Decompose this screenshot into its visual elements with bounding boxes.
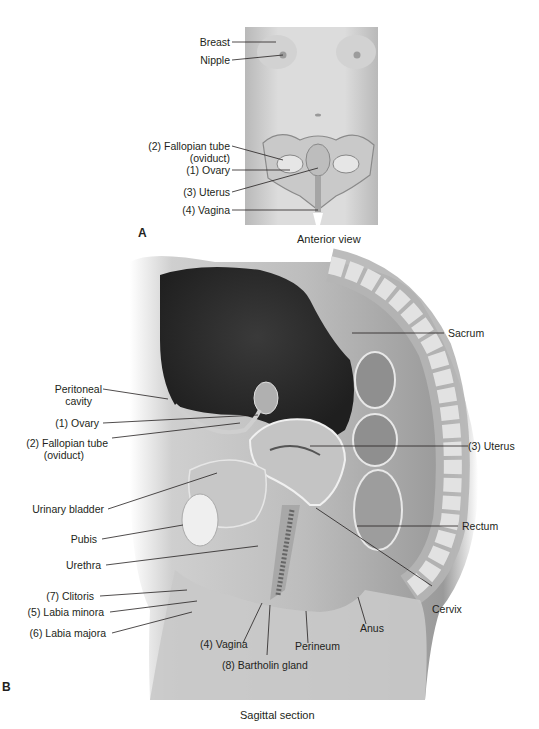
- label-urinary-bladder: Urinary bladder: [32, 503, 104, 515]
- label-bartholin-gland: (8) Bartholin gland: [222, 659, 308, 671]
- label-fallopian-tube-b: (2) Fallopian tube: [26, 437, 108, 449]
- label-rectum: Rectum: [462, 520, 498, 532]
- label-vagina-a: (4) Vagina: [182, 204, 230, 216]
- label-ovary-b: (1) Ovary: [55, 417, 99, 429]
- label-sacrum: Sacrum: [448, 327, 484, 339]
- label-peritoneal-cavity-1: Peritoneal: [55, 383, 102, 395]
- label-urethra: Urethra: [66, 559, 101, 571]
- label-breast: Breast: [200, 36, 230, 48]
- panel-a-caption: Anterior view: [297, 233, 361, 245]
- label-vagina-b: (4) Vagina: [200, 638, 248, 650]
- label-labia-minora: (5) Labia minora: [28, 606, 104, 618]
- label-labia-majora: (6) Labia majora: [30, 627, 106, 639]
- panel-b-caption: Sagittal section: [240, 709, 315, 721]
- label-oviduct-a: (oviduct): [190, 152, 230, 164]
- anatomy-illustration: [0, 0, 539, 729]
- label-ovary-a: (1) Ovary: [186, 164, 230, 176]
- label-clitoris: (7) Clitoris: [46, 590, 94, 602]
- label-oviduct-b: (oviduct): [44, 449, 84, 461]
- label-pubis: Pubis: [71, 533, 97, 545]
- panel-b-letter: B: [2, 680, 11, 694]
- label-peritoneal-cavity-2: cavity: [65, 395, 92, 407]
- label-nipple: Nipple: [200, 54, 230, 66]
- label-cervix: Cervix: [432, 603, 462, 615]
- label-uterus-b: (3) Uterus: [468, 440, 515, 452]
- label-anus: Anus: [360, 622, 384, 634]
- label-perineum: Perineum: [295, 640, 340, 652]
- label-fallopian-tube-a: (2) Fallopian tube: [148, 140, 230, 152]
- panel-a-letter: A: [138, 226, 147, 240]
- label-uterus-a: (3) Uterus: [183, 186, 230, 198]
- sagittal-section-figure: [130, 256, 478, 700]
